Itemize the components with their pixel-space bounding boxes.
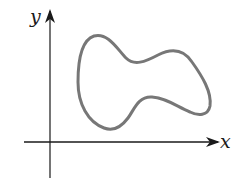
y-axis-label: y [29, 5, 41, 27]
x-axis-label: x [220, 130, 231, 152]
closed-curve [78, 35, 210, 129]
diagram-canvas: y x [0, 0, 233, 188]
